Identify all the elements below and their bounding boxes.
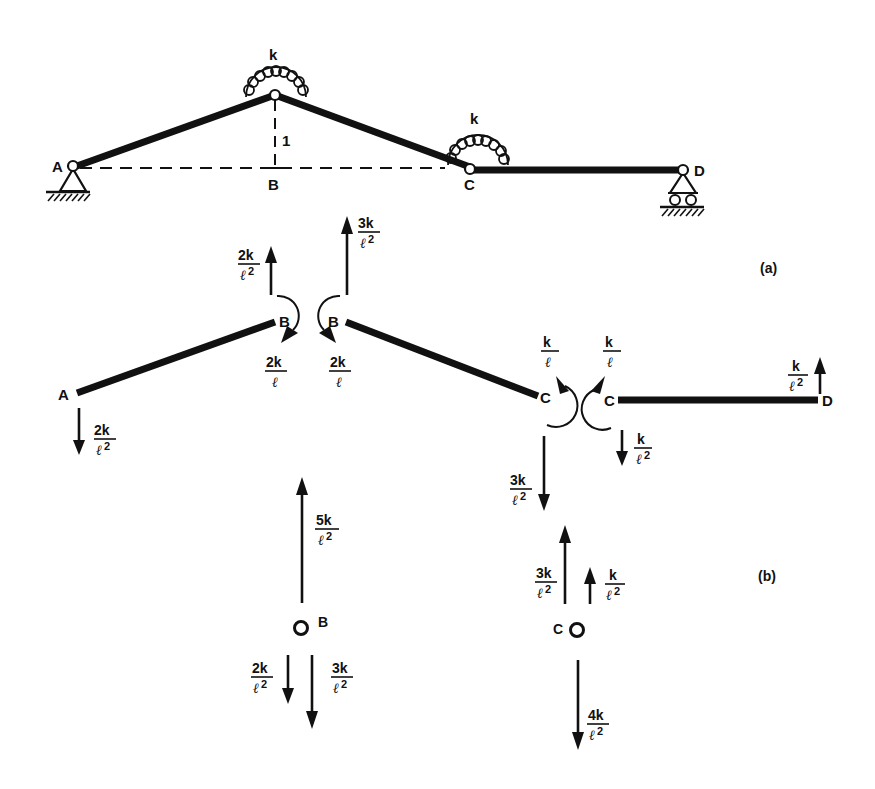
hinge-b — [270, 90, 280, 100]
svg-text:ℓ: ℓ — [545, 354, 551, 370]
fbd-member-ab — [77, 322, 275, 393]
svg-text:3k: 3k — [358, 215, 374, 231]
svg-text:k: k — [609, 567, 617, 583]
svg-text:ℓ: ℓ — [333, 680, 339, 696]
svg-text:ℓ: ℓ — [512, 492, 518, 508]
rise-label: 1 — [282, 132, 290, 149]
svg-text:k: k — [792, 358, 800, 374]
fbd-cd-label-c: C — [604, 392, 615, 409]
force-arrow-up-icon — [296, 477, 308, 603]
svg-text:ℓ: ℓ — [360, 235, 366, 251]
fbd-cd-d-force-label: k ℓ 2 — [788, 358, 808, 394]
force-arrow-down-icon — [73, 408, 85, 455]
member-ab — [77, 95, 275, 166]
svg-text:2k: 2k — [94, 422, 110, 438]
panel-b: A B 2k ℓ 2 2k ℓ 2 2k — [58, 215, 833, 750]
svg-text:2: 2 — [644, 449, 650, 461]
svg-text:ℓ: ℓ — [272, 374, 278, 390]
svg-text:ℓ: ℓ — [537, 585, 543, 601]
force-arrow-down-icon — [538, 436, 550, 511]
force-arrow-down-icon — [616, 430, 628, 466]
svg-text:2: 2 — [520, 490, 526, 502]
svg-text:ℓ: ℓ — [318, 532, 324, 548]
rotational-spring-c-icon — [446, 135, 509, 165]
force-arrow-down-icon — [282, 655, 294, 704]
svg-text:3k: 3k — [510, 472, 526, 488]
fbd-ab-a-force-label: 2k ℓ 2 — [94, 422, 116, 458]
panel-b-label: (b) — [758, 568, 776, 584]
svg-text:2: 2 — [248, 265, 254, 277]
roller-support-d-icon — [660, 173, 704, 216]
svg-text:2: 2 — [326, 530, 332, 542]
hinge-d — [678, 165, 688, 175]
svg-text:2: 2 — [797, 376, 803, 388]
node-label-c: C — [464, 176, 475, 193]
panel-a-label: (a) — [760, 260, 777, 276]
joint-c-force-2-label: k ℓ 2 — [605, 567, 625, 603]
joint-b-node — [295, 622, 308, 635]
force-arrow-up-icon — [265, 246, 277, 295]
joint-c-node — [571, 624, 584, 637]
joint-b-force-1-label: 5k ℓ 2 — [315, 512, 339, 548]
svg-text:ℓ: ℓ — [789, 378, 795, 394]
svg-text:ℓ: ℓ — [589, 727, 595, 743]
force-arrow-up-icon — [341, 216, 353, 295]
joint-c-force-3-label: 4k ℓ 2 — [587, 707, 609, 743]
node-label-b: B — [268, 176, 279, 193]
joint-b-force-2-label: 2k ℓ 2 — [251, 660, 273, 696]
svg-text:2: 2 — [261, 678, 267, 690]
joint-b: B 5k ℓ 2 2k ℓ 2 — [251, 477, 353, 729]
svg-text:4k: 4k — [588, 707, 604, 723]
fbd-cd-c-moment-label: k ℓ — [603, 334, 621, 370]
fbd-member-bc — [346, 322, 538, 396]
svg-text:ℓ: ℓ — [240, 267, 246, 283]
panel-a: 1 k — [46, 46, 777, 276]
joint-c: C 3k ℓ 2 k ℓ 2 — [535, 525, 625, 750]
structural-diagram: 1 k — [0, 0, 875, 789]
svg-text:2: 2 — [597, 725, 603, 737]
svg-text:ℓ: ℓ — [607, 354, 613, 370]
svg-text:5k: 5k — [316, 512, 332, 528]
joint-c-force-1-label: 3k ℓ 2 — [535, 565, 557, 601]
svg-text:ℓ: ℓ — [336, 374, 342, 390]
fbd-cd-label-d: D — [822, 392, 833, 409]
fbd-bc-c-moment-label: k ℓ — [541, 334, 559, 370]
svg-text:2k: 2k — [252, 660, 268, 676]
svg-text:3k: 3k — [536, 565, 552, 581]
svg-text:k: k — [543, 334, 551, 350]
joint-b-force-3-label: 3k ℓ 2 — [331, 660, 353, 696]
svg-text:k: k — [605, 334, 613, 350]
force-arrow-down-icon — [306, 655, 318, 729]
svg-text:2: 2 — [341, 678, 347, 690]
hinge-a — [68, 161, 78, 171]
fbd-bc-b-moment-label: 2k ℓ — [329, 354, 351, 390]
moment-arrow-counterclockwise-icon — [547, 376, 577, 427]
fbd-ab-b-force-label: 2k ℓ 2 — [238, 247, 260, 283]
svg-text:C: C — [553, 621, 563, 637]
svg-text:2: 2 — [368, 233, 374, 245]
fbd-ab-label-a: A — [58, 386, 69, 403]
member-bc — [275, 95, 470, 167]
force-arrow-up-icon — [584, 567, 596, 604]
svg-text:ℓ: ℓ — [96, 442, 102, 458]
node-label-d: D — [694, 162, 705, 179]
svg-text:2k: 2k — [330, 354, 346, 370]
fbd-bc-c-force-label: 3k ℓ 2 — [510, 472, 532, 508]
svg-text:2: 2 — [614, 585, 620, 597]
spring-label-c: k — [470, 110, 479, 127]
node-label-a: A — [52, 158, 63, 175]
svg-text:2k: 2k — [238, 247, 254, 263]
svg-text:k: k — [637, 431, 645, 447]
svg-text:B: B — [318, 614, 328, 630]
spring-label-b: k — [269, 46, 278, 63]
force-arrow-up-icon — [814, 357, 826, 394]
svg-text:ℓ: ℓ — [606, 587, 612, 603]
svg-text:2: 2 — [104, 440, 110, 452]
force-arrow-up-icon — [559, 525, 571, 604]
hinge-c — [465, 164, 475, 174]
svg-text:2: 2 — [545, 583, 551, 595]
svg-text:3k: 3k — [332, 660, 348, 676]
fbd-cd-c-force-label: k ℓ 2 — [634, 431, 652, 467]
svg-text:ℓ: ℓ — [636, 451, 642, 467]
fbd-bc-label-c: C — [540, 389, 551, 406]
